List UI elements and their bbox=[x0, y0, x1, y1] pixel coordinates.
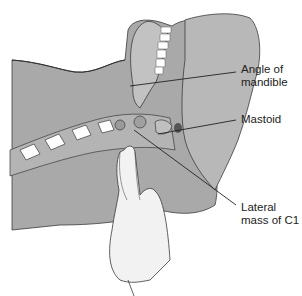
label-lateral-mass-c1: Lateral mass of C1 bbox=[241, 201, 299, 227]
label-mastoid: Mastoid bbox=[241, 113, 281, 126]
anatomy-illustration bbox=[0, 0, 302, 296]
label-angle-of-mandible: Angle of mandible bbox=[241, 63, 288, 89]
mastoid-process bbox=[174, 123, 182, 133]
